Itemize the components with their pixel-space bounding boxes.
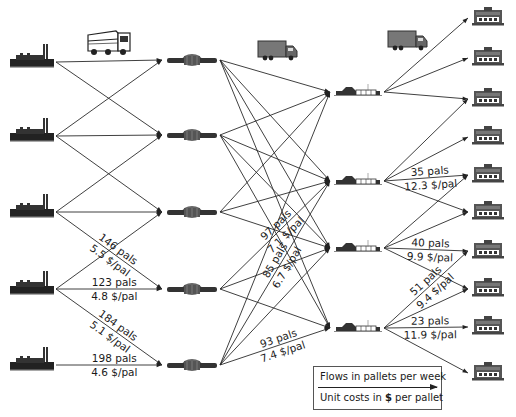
flow-volume: 35 pals xyxy=(410,163,449,178)
flow-unit-cost: 12.3 $/pal xyxy=(404,177,458,193)
store-icon xyxy=(472,7,504,26)
supply-chain-diagram: 146 pals5.5 $/pal123 pals4.8 $/pal184 pa… xyxy=(0,0,516,417)
factory-icon xyxy=(10,194,54,218)
flow-volume: 198 pals xyxy=(92,352,137,364)
factory-icon xyxy=(10,118,54,142)
flow-unit-cost: 4.6 $/pal xyxy=(91,366,137,378)
heavy-truck-icon xyxy=(88,31,130,55)
distribution-center-icon xyxy=(334,320,382,332)
legend-cost-label: Unit costs in $ per pallet xyxy=(320,392,443,403)
flow-arrow xyxy=(384,58,468,92)
flow-arrow xyxy=(56,135,162,136)
store-icon xyxy=(472,47,504,66)
flow-volume: 23 pals xyxy=(411,314,449,326)
distribution-center-icon xyxy=(334,240,382,252)
flow-arrow xyxy=(220,60,330,181)
box-truck-icon xyxy=(388,31,427,50)
store-icon xyxy=(472,164,504,183)
store-icon xyxy=(472,362,504,381)
flow-arrow xyxy=(56,60,162,136)
flow-arrow xyxy=(220,289,330,328)
warehouse-icon xyxy=(167,129,217,141)
flow-labels: 146 pals5.5 $/pal123 pals4.8 $/pal184 pa… xyxy=(88,163,458,378)
distribution-center-icon xyxy=(334,84,382,96)
flow-arrow xyxy=(220,181,330,212)
legend-flow-label: Flows in pallets per week xyxy=(320,371,446,382)
flow-unit-cost: 4.8 $/pal xyxy=(91,290,137,302)
store-icon xyxy=(472,240,504,259)
warehouse-icon xyxy=(167,283,217,295)
legend: Flows in pallets per week Unit costs in … xyxy=(313,366,442,410)
factory-icon xyxy=(10,347,54,371)
store-icon xyxy=(472,278,504,297)
legend-arrow-icon xyxy=(318,387,437,388)
warehouse-icon xyxy=(167,54,217,66)
store-icon xyxy=(472,316,504,335)
distribution-center-icon xyxy=(334,173,382,185)
store-icon xyxy=(472,126,504,145)
flow-unit-cost: 11.9 $/pal xyxy=(404,328,457,341)
warehouse-icon xyxy=(167,359,217,371)
flow-arrow xyxy=(56,60,162,62)
store-icon xyxy=(472,201,504,220)
factory-icon xyxy=(10,44,54,68)
flow-arrow xyxy=(384,18,468,92)
flow-arrow xyxy=(220,60,330,92)
store-icon xyxy=(472,88,504,107)
flow-volume: 123 pals xyxy=(92,276,137,288)
flow-arrow xyxy=(220,135,330,181)
factory-icon xyxy=(10,271,54,295)
flow-arrow xyxy=(384,92,468,99)
flow-unit-cost: 9.9 $/pal xyxy=(407,250,454,264)
box-truck-icon xyxy=(258,41,297,60)
warehouse-icon xyxy=(167,206,217,218)
flow-arrow xyxy=(220,92,330,135)
flow-volume: 40 pals xyxy=(411,236,450,249)
